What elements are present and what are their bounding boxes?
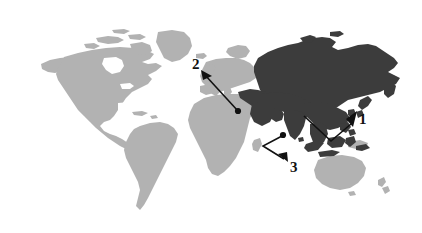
callout-label-1: 1	[359, 112, 367, 127]
callout-2-anchor-dot	[235, 108, 241, 114]
world-map-figure: 1 2 3	[0, 0, 422, 233]
callout-3-anchor-dot	[280, 132, 286, 138]
callout-label-2: 2	[192, 57, 200, 72]
callout-label-3: 3	[290, 160, 298, 175]
